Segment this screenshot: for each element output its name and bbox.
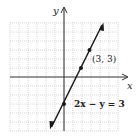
point-0-neg3: [62, 102, 66, 106]
x-axis-label: x: [127, 80, 133, 91]
y-axis: [61, 7, 67, 131]
point-2-1: [79, 66, 83, 70]
y-axis-label: y: [52, 5, 59, 16]
coordinate-plane: y x (3, 3) 2x − y = 3: [0, 0, 140, 140]
graph-line: [50, 23, 105, 130]
equation-label: 2x − y = 3: [74, 99, 125, 109]
point-3-3: [88, 48, 92, 52]
line-arrow-down-icon: [50, 121, 55, 130]
point-label: (3, 3): [92, 54, 116, 64]
